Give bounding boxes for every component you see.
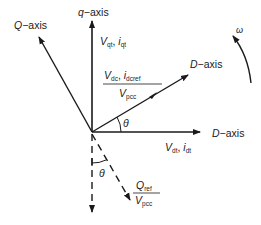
D-axis-horizontal: D−axis: [92, 127, 244, 139]
Q-axis-label-suffix: −axis: [22, 19, 47, 31]
dc-fraction-numerator: Vdc, idcref: [104, 69, 141, 82]
vdt-idt-label: Vdt, idt: [165, 141, 191, 154]
D-axis-horizontal-label-suffix: −axis: [220, 127, 245, 139]
rotation-arrow-icon: [233, 36, 251, 83]
q-axis-label-suffix: −axis: [84, 6, 109, 18]
svg-text:D−axis: D−axis: [212, 127, 244, 139]
Q-axis: Q−axis: [14, 19, 92, 132]
dc-fraction-denominator: Vpcc: [119, 87, 137, 101]
omega-label: ω: [236, 25, 243, 35]
theta-upper-label: θ: [123, 117, 129, 129]
D-axis-rotated: D−axis: [92, 58, 222, 132]
theta-lower-label: θ: [99, 167, 105, 179]
vqt-iqt-label: Vqt, iqt: [100, 35, 126, 49]
theta-arc-lower: [92, 160, 106, 163]
svg-text:Q−axis: Q−axis: [14, 19, 47, 31]
q-ref-denominator: Vpcc: [135, 194, 153, 208]
svg-text:D−axis: D−axis: [190, 58, 222, 70]
Q-axis-label-prefix: Q: [14, 19, 22, 31]
theta-arc-upper: [117, 117, 121, 132]
q-ref-numerator: Qref: [136, 179, 152, 192]
phasor-diagram: q−axis Q−axis D−axis D−axis Vqt, iqt Vdc…: [0, 0, 261, 225]
svg-text:q−axis: q−axis: [78, 6, 109, 18]
q-ref-fraction: Qref Vpcc: [133, 179, 160, 208]
D-axis-rotated-label-suffix: −axis: [198, 58, 223, 70]
dashed-q-ref-vector: [92, 134, 130, 200]
